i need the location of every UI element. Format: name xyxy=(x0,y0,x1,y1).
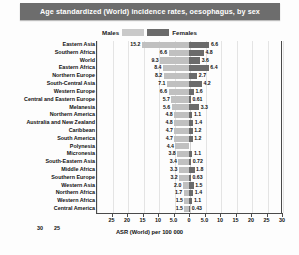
bar-male-value: 5.7 xyxy=(163,96,170,104)
bar-male-value: 4.4 xyxy=(167,143,174,151)
row-bars: 4.81.1 xyxy=(96,111,282,119)
row-category-label: Northern Europe xyxy=(0,72,95,80)
x-axis-tick xyxy=(158,213,159,217)
bar-male-value: 6.6 xyxy=(160,49,167,57)
x-axis-tick xyxy=(127,213,128,217)
bar-female xyxy=(189,65,209,71)
chart-row: South America4.71.2 xyxy=(0,135,299,143)
bar-female-value: 1.1 xyxy=(194,111,201,119)
row-bars: 8.46.4 xyxy=(96,64,282,72)
chart-row: Central and Eastern Europe5.70.61 xyxy=(0,96,299,104)
chart-row: Western Africa1.51.1 xyxy=(0,197,299,205)
row-bars: 4.4 xyxy=(96,143,282,151)
bar-female xyxy=(189,104,199,110)
bar-female-value: 0.72 xyxy=(193,158,203,166)
row-category-label: Melanesia xyxy=(0,104,95,112)
bar-male-value: 7.1 xyxy=(158,80,165,88)
row-bars: 4.71.2 xyxy=(96,127,282,135)
bar-female xyxy=(189,190,193,196)
chart-row: Australia and New Zealand4.81.4 xyxy=(0,119,299,127)
bar-male-value: 4.8 xyxy=(165,111,172,119)
chart-row: Middle Africa3.31.8 xyxy=(0,166,299,174)
chart-legend: Males Females xyxy=(0,27,299,38)
bar-male-value: 3.8 xyxy=(169,150,176,158)
bar-female xyxy=(189,73,197,79)
bar-female xyxy=(189,120,193,126)
bar-female xyxy=(189,128,193,134)
bar-male xyxy=(167,81,189,87)
bar-female xyxy=(189,182,194,188)
bar-male-value: 8.2 xyxy=(155,72,162,80)
chart-row: Northern Europe8.22.7 xyxy=(0,72,299,80)
row-bars: 3.40.72 xyxy=(96,158,282,166)
bar-male-value: 1.5 xyxy=(176,205,183,213)
x-axis-tick xyxy=(282,213,283,217)
bar-male-value: 3.2 xyxy=(170,174,177,182)
bar-female xyxy=(189,167,195,173)
x-axis-tick-label: 20 xyxy=(248,217,254,223)
chart-row: South-Eastern Asia3.40.72 xyxy=(0,158,299,166)
chart-title-banner: Age standardized (World) incidence rates… xyxy=(20,3,280,20)
bar-male xyxy=(174,128,189,134)
bar-male xyxy=(169,50,189,56)
bar-female xyxy=(189,50,204,56)
bar-female-value: 0.63 xyxy=(192,174,202,182)
row-bars: 6.61.6 xyxy=(96,88,282,96)
bar-male xyxy=(179,175,189,181)
bar-male-value: 15.2 xyxy=(130,41,140,49)
bar-female-value: 0.43 xyxy=(192,205,202,213)
row-category-label: Southern Europe xyxy=(0,174,95,182)
x-axis-tick-label: 15 xyxy=(140,217,146,223)
row-category-label: World xyxy=(0,57,95,65)
bar-male xyxy=(163,65,189,71)
x-axis-tick xyxy=(251,213,252,217)
bar-male-value: 6.6 xyxy=(160,88,167,96)
bar-female-value: 6.6 xyxy=(211,41,218,49)
legend-label-males: Males xyxy=(102,29,119,36)
bar-male xyxy=(177,151,189,157)
row-category-label: Middle Africa xyxy=(0,166,95,174)
bar-female xyxy=(189,57,200,63)
row-bars: 5.70.61 xyxy=(96,96,282,104)
row-category-label: Polynesia xyxy=(0,143,95,151)
bar-male-value: 1.5 xyxy=(176,197,183,205)
row-bars: 5.63.3 xyxy=(96,104,282,112)
row-category-label: Caribbean xyxy=(0,127,95,135)
row-bars: 9.33.6 xyxy=(96,57,282,65)
row-category-label: South America xyxy=(0,135,95,143)
bar-male-value: 3.4 xyxy=(170,158,177,166)
chart-row: Central America1.50.43 xyxy=(0,205,299,213)
legend-swatch-females-icon xyxy=(147,29,169,36)
bar-male xyxy=(172,104,189,110)
bar-male xyxy=(160,57,189,63)
bar-male-value: 8.4 xyxy=(154,64,161,72)
row-bars: 7.14.2 xyxy=(96,80,282,88)
bar-male-value: 2.0 xyxy=(174,182,181,190)
x-axis-tick-label: 0 xyxy=(188,217,191,223)
bar-female xyxy=(189,159,191,165)
x-axis-tick-label: 10 xyxy=(155,217,161,223)
chart-row: Micronesia3.81.1 xyxy=(0,150,299,158)
bar-male xyxy=(169,89,189,95)
row-bars: 4.71.2 xyxy=(96,135,282,143)
bar-female-value: 4.2 xyxy=(204,80,211,88)
bar-female-value: 3.6 xyxy=(202,57,209,65)
chart-rows: Eastern Asia15.26.6Southern Africa6.64.8… xyxy=(0,41,299,213)
chart-row: Polynesia4.4 xyxy=(0,143,299,151)
bar-female xyxy=(189,198,192,204)
bar-female-value: 0.61 xyxy=(192,96,202,104)
bar-female xyxy=(189,151,192,157)
chart-row: Eastern Asia15.26.6 xyxy=(0,41,299,49)
bar-female-value: 1.1 xyxy=(194,150,201,158)
bar-male xyxy=(171,96,189,102)
row-bars: 8.22.7 xyxy=(96,72,282,80)
row-category-label: Micronesia xyxy=(0,150,95,158)
row-bars: 1.50.43 xyxy=(96,205,282,213)
x-axis-tick xyxy=(236,213,237,217)
legend-swatch-males-icon xyxy=(122,29,144,36)
bar-female-value: 4.8 xyxy=(205,49,212,57)
bar-female-value: 1.4 xyxy=(195,119,202,127)
bar-female-value: 1.6 xyxy=(195,88,202,96)
bar-female xyxy=(189,81,202,87)
bar-male xyxy=(142,42,189,48)
